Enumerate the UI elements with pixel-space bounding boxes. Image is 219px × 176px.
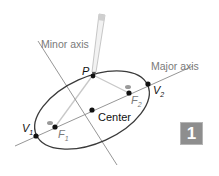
major-axis-line — [15, 66, 193, 146]
ellipse-diagram: Minor axis Major axis Center P V1 V2 F1 … — [0, 0, 219, 176]
string-f2-p — [93, 75, 129, 93]
center-label: Center — [98, 111, 131, 123]
vertex-v1-point — [33, 133, 38, 138]
figure-number-badge: 1 — [180, 122, 203, 145]
pencil-icon — [92, 14, 105, 77]
point-p-label: P — [82, 65, 90, 77]
focus-f1-point — [52, 124, 57, 129]
point-p — [91, 74, 96, 79]
major-axis-label: Major axis — [151, 60, 199, 72]
pin-icon-f1 — [47, 121, 53, 125]
center-point — [89, 107, 94, 112]
focus-f1-label: F1 — [58, 128, 69, 142]
vertex-v2-point — [145, 81, 150, 86]
minor-axis-label: Minor axis — [41, 38, 89, 50]
focus-f2-label: F2 — [131, 94, 142, 108]
vertex-v1-label: V1 — [22, 122, 33, 136]
vertex-v2-label: V2 — [153, 84, 164, 98]
pin-icon-f2 — [125, 85, 131, 89]
